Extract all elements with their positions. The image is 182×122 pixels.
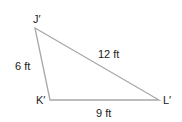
- vertex-label-j: J′: [33, 14, 41, 25]
- side-label-jl: 12 ft: [98, 49, 119, 60]
- vertex-label-l: L′: [163, 95, 171, 106]
- triangle-jkl: [35, 28, 159, 100]
- side-label-jk: 6 ft: [15, 61, 30, 72]
- vertex-label-k: K′: [36, 95, 45, 106]
- side-label-kl: 9 ft: [96, 108, 111, 119]
